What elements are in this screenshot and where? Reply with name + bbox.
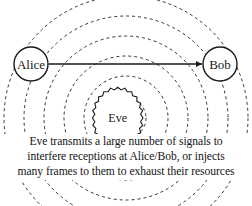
bob-label: Bob: [209, 57, 231, 72]
node-alice[interactable]: Alice: [14, 47, 48, 81]
caption-line-3: many frames to them to exhaust their res…: [0, 164, 252, 179]
node-bob[interactable]: Bob: [203, 47, 237, 81]
caption: Eve transmits a large number of signals …: [0, 134, 252, 180]
caption-line-2: interfere receptions at Alice/Bob, or in…: [0, 149, 252, 164]
caption-line-1: Eve transmits a large number of signals …: [0, 134, 252, 149]
eve-label: Eve: [108, 111, 127, 125]
jamming-attack-figure: Alice Bob Eve Eve transmits a large numb…: [0, 0, 252, 206]
alice-label: Alice: [17, 57, 45, 72]
